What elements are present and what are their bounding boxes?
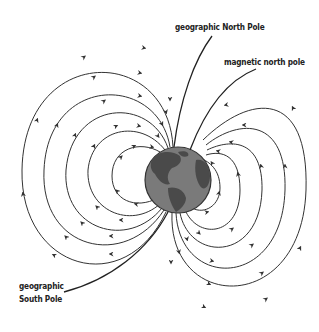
earth-globe (145, 147, 211, 213)
geographic-south-pole-label-line1: geographic (19, 280, 64, 291)
geographic-south-pole-label-line2: South Pole (19, 293, 62, 304)
magnetic-north-pole-label: magnetic north pole (224, 56, 305, 67)
geographic-north-pole-label: geographic North Pole (175, 21, 265, 32)
geographic-north-pointer (174, 36, 212, 147)
magnetic-north-pointer (190, 69, 256, 150)
